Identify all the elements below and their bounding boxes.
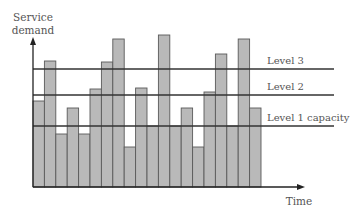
bar-t16 — [204, 92, 215, 187]
demand-bars — [33, 35, 261, 187]
bar-t15 — [193, 147, 204, 187]
bar-t17 — [215, 54, 226, 187]
bar-t3 — [56, 134, 67, 187]
bar-t2 — [44, 61, 55, 187]
service-demand-chart: Level 3Level 2Level 1 capacity Service d… — [0, 0, 353, 213]
reference-line-label: Level 2 — [267, 81, 304, 92]
bar-t14 — [181, 108, 192, 187]
bar-t11 — [147, 126, 158, 187]
bar-t20 — [250, 108, 261, 187]
bar-t9 — [124, 147, 135, 187]
bar-t12 — [158, 35, 169, 187]
bar-t18 — [227, 126, 238, 187]
bar-t13 — [170, 126, 181, 187]
reference-line-label: Level 1 capacity — [267, 112, 350, 123]
y-axis-label-line1: Service — [13, 11, 53, 23]
bar-t8 — [113, 39, 124, 187]
y-axis-label-line2: demand — [12, 24, 55, 36]
x-axis-arrow-icon — [297, 184, 305, 190]
reference-line-label: Level 3 — [267, 55, 304, 66]
bar-t10 — [136, 88, 147, 187]
x-axis-label: Time — [286, 195, 313, 207]
bar-t6 — [90, 89, 101, 187]
bar-t1 — [33, 101, 44, 187]
bar-t19 — [238, 39, 249, 187]
y-axis-arrow-icon — [30, 37, 36, 45]
bar-t5 — [79, 134, 90, 187]
bar-t7 — [101, 62, 112, 187]
bar-t4 — [67, 108, 78, 187]
